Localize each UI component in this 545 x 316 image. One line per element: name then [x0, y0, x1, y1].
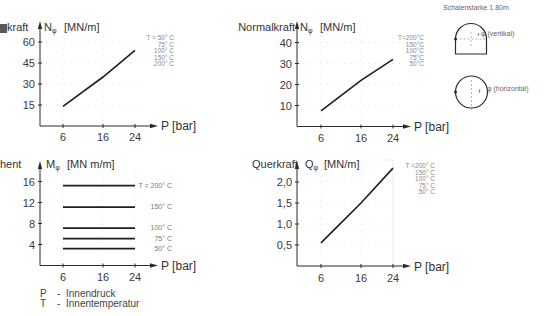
y-ticks: 16 12 8 4 — [23, 176, 42, 251]
series-label: 100° C — [151, 224, 172, 231]
chart-title: Querkraft — [252, 158, 298, 170]
shell-thickness-label: Schalenstarke 1.80m — [443, 4, 509, 11]
y-tick-label: 20 — [280, 79, 292, 91]
x-tick-label: 16 — [97, 271, 109, 283]
temperature-legend: T=200°C 150°C 100°C 75°C 50°C — [398, 34, 424, 67]
x-axis-arrow-icon — [150, 263, 158, 267]
legend-item: 50°C — [409, 60, 424, 67]
y-axis-arrow-icon — [38, 161, 42, 169]
y-axis-arrow-icon — [38, 21, 42, 29]
y-axis-arrow-icon — [295, 21, 299, 29]
series-line — [321, 59, 393, 111]
y-tick-label: 30 — [280, 58, 292, 70]
y-tick-label: 30 — [23, 78, 35, 90]
grid — [297, 160, 393, 266]
x-tick-label: 6 — [318, 132, 324, 144]
series-labels: T = 200° C 150° C 100° C 75° C 50° C — [138, 182, 172, 253]
x-tick-label: 24 — [387, 272, 399, 284]
x-tick-label: 24 — [129, 131, 141, 143]
series-line — [63, 50, 135, 106]
series-label: 75° C — [154, 235, 172, 242]
x-axis-arrow-icon — [403, 264, 411, 268]
circular-section-icon — [454, 76, 488, 112]
symbol-key: P - Innendruck T - Innentemperatur — [40, 288, 140, 309]
y-tick-label: 45 — [23, 57, 35, 69]
y-ticks: 40 30 20 10 — [280, 37, 299, 112]
y-tick-label: 2,0 — [277, 176, 292, 188]
y-tick-label: 60 — [23, 36, 35, 48]
x-axis-arrow-icon — [403, 124, 411, 128]
y-axis-unit: [MN/m] — [64, 21, 99, 33]
chart-moment: hent Mφ [MN m/m] 16 12 8 4 6 16 — [0, 158, 196, 283]
x-tick-label: 24 — [129, 271, 141, 283]
y-tick-label: 0,5 — [277, 239, 292, 251]
x-tick-label: 16 — [97, 131, 109, 143]
series-label: T = 200° C — [138, 182, 172, 189]
legend-item: 50° C — [419, 188, 436, 195]
y-tick-label: 40 — [280, 37, 292, 49]
y-axis-unit: [MN m/m] — [67, 158, 115, 170]
chart-title: Normalkraft — [238, 21, 295, 33]
x-tick-label: 6 — [60, 271, 66, 283]
x-axis-label: P [bar] — [414, 120, 449, 134]
temperature-legend: T = 50° C 75° C 100° C 150° C 200° C — [146, 34, 174, 67]
y-tick-label: 4 — [29, 239, 35, 251]
y-axis-label: Nφ — [44, 21, 57, 35]
y-tick-label: 10 — [280, 100, 292, 112]
temperature-legend: T =200° C 150° C 100° C 75° C 50° C — [406, 162, 436, 195]
chart-normal-force-right: Normalkraft Nφ [MN/m] 40 30 20 10 — [238, 21, 449, 144]
x-axis-label: P [bar] — [161, 259, 196, 273]
grid — [297, 30, 400, 126]
x-axis-arrow-icon — [150, 124, 158, 128]
y-tick-label: 1,5 — [277, 197, 292, 209]
legend-item: 200° C — [154, 60, 174, 67]
x-tick-label: 16 — [355, 272, 367, 284]
y-tick-label: 16 — [23, 176, 35, 188]
key-text: Innentemperatur — [66, 298, 140, 309]
y-axis-unit: [MN/m] — [320, 21, 355, 33]
chart-shear-force: Querkraft Qφ [MN/m] 2,0 1,5 1,0 0,5 — [252, 158, 449, 284]
figure-svg: kraft Nφ [MN/m] 60 45 30 15 — [0, 0, 545, 316]
horizontal-angle-label: φ (horizontal) — [487, 85, 529, 93]
y-tick-label: 12 — [23, 197, 35, 209]
x-tick-label: 6 — [318, 272, 324, 284]
chart-title: kraft — [7, 21, 28, 33]
key-dash: - — [57, 298, 60, 309]
y-axis-label: Qφ — [305, 158, 319, 172]
grid — [40, 30, 140, 126]
x-ticks: 6 16 24 — [60, 124, 141, 143]
y-axis-label: Nφ — [300, 21, 313, 35]
series-line — [321, 168, 393, 243]
series-label: 150° C — [151, 203, 172, 210]
x-ticks: 6 16 24 — [60, 264, 141, 284]
chart-title: hent — [0, 158, 21, 170]
x-axis-label: P [bar] — [161, 119, 196, 133]
y-tick-label: 15 — [23, 99, 35, 111]
key-symbol: T — [40, 298, 46, 309]
y-ticks: 2,0 1,5 1,0 0,5 — [277, 176, 299, 251]
grid — [63, 170, 135, 265]
chart-normal-force-left: kraft Nφ [MN/m] 60 45 30 15 — [0, 21, 196, 143]
scan-artifact — [0, 24, 7, 33]
vertical-angle-label: φ (vertikal) — [481, 30, 514, 38]
y-axis-label: Mφ — [46, 158, 60, 172]
horseshoe-section-icon — [454, 24, 487, 55]
cross-section-diagrams: Schalenstarke 1.80m φ (vertikal) φ (hori… — [443, 4, 529, 112]
figure-canvas: kraft Nφ [MN/m] 60 45 30 15 — [0, 0, 545, 316]
y-axis-unit: [MN/m] — [324, 158, 359, 170]
y-ticks: 60 45 30 15 — [23, 36, 42, 111]
x-ticks: 6 16 24 — [318, 264, 399, 284]
x-ticks: 6 16 24 — [318, 125, 399, 145]
x-tick-label: 6 — [60, 131, 66, 143]
x-axis-label: P [bar] — [414, 260, 449, 274]
series-label: 50° C — [154, 245, 172, 252]
y-tick-label: 8 — [29, 218, 35, 230]
y-tick-label: 1,0 — [277, 218, 292, 230]
x-tick-label: 24 — [387, 132, 399, 144]
x-tick-label: 16 — [355, 132, 367, 144]
